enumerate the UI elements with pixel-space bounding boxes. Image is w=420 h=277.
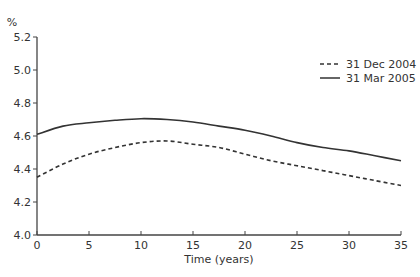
x-axis-title: Time (years): [183, 253, 253, 266]
x-tick-label: 10: [134, 239, 148, 252]
legend-label: 31 Mar 2005: [346, 72, 416, 85]
plot-lines: [37, 119, 401, 186]
y-tick-label: 4.4: [14, 163, 32, 176]
series-line-mar-2005: [37, 119, 401, 161]
legend-label: 31 Dec 2004: [346, 58, 416, 71]
y-tick-label: 4.2: [14, 196, 32, 209]
x-tick-label: 30: [342, 239, 356, 252]
line-chart: 4.04.24.44.64.85.05.205101520253035%Time…: [0, 0, 420, 277]
x-tick-label: 5: [86, 239, 93, 252]
y-tick-label: 5.2: [14, 31, 32, 44]
y-tick-label: 4.6: [14, 130, 32, 143]
y-tick-label: 5.0: [14, 64, 32, 77]
y-axis-title: %: [7, 16, 17, 29]
x-tick-label: 25: [290, 239, 304, 252]
axes: 4.04.24.44.64.85.05.205101520253035%Time…: [7, 16, 408, 266]
x-tick-label: 0: [34, 239, 41, 252]
x-tick-label: 15: [186, 239, 200, 252]
x-tick-label: 20: [238, 239, 252, 252]
x-tick-label: 35: [394, 239, 408, 252]
legend: 31 Dec 200431 Mar 2005: [320, 58, 416, 85]
y-tick-label: 4.8: [14, 97, 32, 110]
series-line-dec-2004: [37, 141, 401, 186]
y-tick-label: 4.0: [14, 229, 32, 242]
